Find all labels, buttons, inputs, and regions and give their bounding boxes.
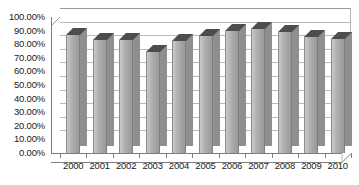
x-axis-tick-label: 2005 xyxy=(195,160,215,171)
y-axis-tick-label: 100.00% xyxy=(9,12,45,22)
y-axis-tick-label: 0.00% xyxy=(19,148,45,158)
bar-2009[interactable] xyxy=(304,37,318,153)
x-axis-tick-label: 2009 xyxy=(301,160,321,171)
bar-front-face xyxy=(225,31,239,153)
y-axis-tick-label: 70.00% xyxy=(14,53,45,63)
y-axis-tick-label: 40.00% xyxy=(14,94,45,104)
bar-top-face xyxy=(331,32,352,39)
bar-top-face xyxy=(278,25,299,32)
bar-2005[interactable] xyxy=(199,36,213,153)
y-axis-tick-label: 10.00% xyxy=(14,135,45,145)
bar-front-face xyxy=(199,36,213,153)
x-axis-tick-label: 2000 xyxy=(63,160,83,171)
y-axis-line xyxy=(51,17,52,153)
y-axis-tick-label: 90.00% xyxy=(14,26,45,36)
bar-side-face xyxy=(239,24,246,146)
x-axis-tick-label: 2007 xyxy=(248,160,268,171)
gridline xyxy=(60,8,351,9)
bar-side-face xyxy=(345,32,352,146)
bar-2002[interactable] xyxy=(119,40,133,153)
x-axis-tick-label: 2003 xyxy=(142,160,162,171)
depth-edge-left xyxy=(51,17,60,26)
x-axis-tick-label: 2006 xyxy=(222,160,242,171)
bar-front-face xyxy=(251,29,265,153)
bar-side-face xyxy=(160,45,167,146)
bar-side-face xyxy=(318,30,325,146)
bar-front-face xyxy=(119,40,133,153)
bar-side-face xyxy=(292,25,299,146)
bar-2000[interactable] xyxy=(66,35,80,153)
bar-top-face xyxy=(172,34,193,41)
x-axis-labels: 2000200120022003200420052006200720082009… xyxy=(0,160,359,178)
y-axis-tick-label: 80.00% xyxy=(14,39,45,49)
chart-container: 100.00% 90.00% 80.00% 70.00% 60.00% 50.0… xyxy=(0,0,359,185)
bar-top-face xyxy=(146,45,167,52)
bar-side-face xyxy=(133,33,140,146)
bar-front-face xyxy=(304,37,318,153)
bar-front-face xyxy=(172,41,186,153)
bar-2004[interactable] xyxy=(172,41,186,153)
x-axis-tick-label: 2001 xyxy=(90,160,110,171)
plot-area xyxy=(51,8,351,158)
x-axis-tick-label: 2010 xyxy=(328,160,348,171)
x-axis-tick-label: 2002 xyxy=(116,160,136,171)
bar-side-face xyxy=(186,34,193,146)
bar-side-face xyxy=(107,33,114,146)
y-axis-tick-label: 30.00% xyxy=(14,107,45,117)
x-axis-tick-label: 2004 xyxy=(169,160,189,171)
x-axis-tick-label: 2008 xyxy=(275,160,295,171)
y-axis-tick-label: 20.00% xyxy=(14,121,45,131)
bar-side-face xyxy=(80,28,87,146)
gridline xyxy=(60,22,351,23)
bar-side-face xyxy=(213,29,220,146)
bar-top-face xyxy=(251,22,272,29)
bar-2008[interactable] xyxy=(278,32,292,153)
bar-top-face xyxy=(199,29,220,36)
bar-front-face xyxy=(66,35,80,153)
bar-top-face xyxy=(119,33,140,40)
bar-top-face xyxy=(225,24,246,31)
bar-front-face xyxy=(146,52,160,153)
bar-top-face xyxy=(66,28,87,35)
bar-front-face xyxy=(278,32,292,153)
bar-side-face xyxy=(265,22,272,146)
y-axis-tick-label: 50.00% xyxy=(14,80,45,90)
bar-2001[interactable] xyxy=(93,40,107,153)
bar-2007[interactable] xyxy=(251,29,265,153)
y-axis-tick-label: 60.00% xyxy=(14,67,45,77)
bar-2003[interactable] xyxy=(146,52,160,153)
bar-2010[interactable] xyxy=(331,39,345,153)
bar-front-face xyxy=(331,39,345,153)
bar-front-face xyxy=(93,40,107,153)
bar-top-face xyxy=(93,33,114,40)
y-axis-labels: 100.00% 90.00% 80.00% 70.00% 60.00% 50.0… xyxy=(0,0,48,185)
bar-2006[interactable] xyxy=(225,31,239,153)
bar-top-face xyxy=(304,30,325,37)
